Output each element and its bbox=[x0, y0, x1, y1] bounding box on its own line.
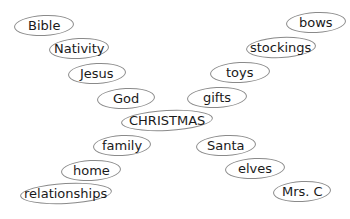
node-label: Nativity bbox=[54, 42, 105, 55]
node-nativity: Nativity bbox=[48, 36, 109, 60]
node-label: toys bbox=[226, 66, 254, 79]
node-mrs-c: Mrs. C bbox=[272, 179, 331, 203]
node-bows: bows bbox=[285, 10, 346, 34]
node-christmas-center: CHRISTMAS bbox=[121, 108, 214, 134]
node-toys: toys bbox=[209, 60, 270, 84]
node-label: home bbox=[73, 164, 110, 177]
node-label: relationships bbox=[24, 187, 107, 200]
node-label: Santa bbox=[207, 139, 245, 152]
node-label: elves bbox=[238, 162, 272, 175]
node-god: God bbox=[96, 86, 155, 110]
node-gifts: gifts bbox=[186, 85, 247, 109]
node-relationships: relationships bbox=[20, 181, 113, 207]
node-bible: Bible bbox=[13, 13, 74, 37]
node-jesus: Jesus bbox=[67, 61, 126, 85]
node-label: God bbox=[113, 92, 139, 105]
node-santa: Santa bbox=[195, 133, 256, 157]
node-label: CHRISTMAS bbox=[129, 114, 205, 127]
node-home: home bbox=[60, 158, 121, 182]
node-label: Jesus bbox=[80, 67, 114, 80]
node-family: family bbox=[92, 133, 151, 157]
node-elves: elves bbox=[224, 156, 285, 180]
node-label: bows bbox=[299, 16, 333, 29]
node-label: family bbox=[102, 139, 142, 152]
node-label: Mrs. C bbox=[282, 185, 323, 198]
node-stockings: stockings bbox=[245, 35, 316, 60]
node-label: stockings bbox=[250, 41, 311, 54]
node-label: gifts bbox=[203, 91, 231, 104]
node-label: Bible bbox=[28, 19, 60, 32]
